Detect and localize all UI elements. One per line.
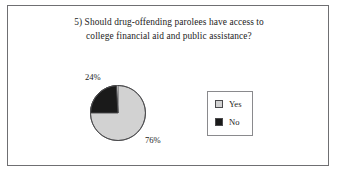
legend-swatch-no xyxy=(215,118,223,126)
figure-title-line-2: college financial aid and public assista… xyxy=(30,30,308,44)
chart-legend: Yes No xyxy=(207,91,253,136)
legend-label-no: No xyxy=(229,118,240,127)
pie-chart-svg xyxy=(90,85,146,141)
figure-title-line-1: 5) Should drug-offending parolees have a… xyxy=(30,16,308,30)
legend-label-yes: Yes xyxy=(229,100,242,109)
legend-item-yes: Yes xyxy=(215,100,242,109)
pie-label-no: 24% xyxy=(85,72,101,82)
page-title: 5) Should drug-offending parolees have a… xyxy=(30,16,308,43)
pie-label-yes: 76% xyxy=(145,135,161,145)
pie-chart xyxy=(90,85,146,141)
legend-swatch-yes xyxy=(215,100,223,108)
figure-frame: 5) Should drug-offending parolees have a… xyxy=(7,5,329,166)
legend-item-no: No xyxy=(215,118,240,127)
